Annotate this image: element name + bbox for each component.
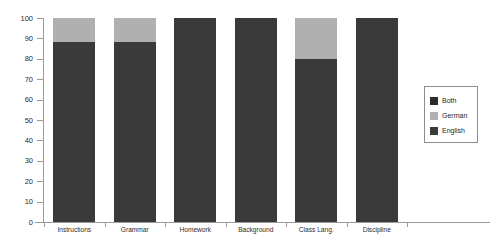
stacked-bar [235,18,277,222]
y-axis-tick-label: 80 [25,56,33,64]
y-axis-tick-label-wrap: 90 [37,38,44,39]
bar-segment-english [174,18,216,222]
y-axis-tick-label-wrap: 60 [37,100,44,101]
stacked-bar [356,18,398,222]
stacked-bar [295,18,337,222]
x-axis-tick [105,222,106,227]
legend-item-german: German [430,108,477,123]
y-axis-tick-label: 90 [25,35,33,43]
bar-segment-english [356,18,398,222]
x-axis-label-grammar: Grammar [121,227,149,234]
x-axis-label-class-lang: Class Lang. [299,227,334,234]
x-axis-tick [44,222,45,227]
plot-area [44,18,407,222]
stacked-bar [114,18,156,222]
y-axis-tick-label: 0 [29,219,33,227]
x-axis-tick [347,222,348,227]
bar-group [114,18,156,222]
legend-swatch-icon [430,127,438,135]
bar-group [53,18,95,222]
y-axis-tick-label: 50 [25,117,33,125]
x-axis-label-instructions: Instructions [57,227,91,234]
y-axis-tick-label-wrap: 30 [37,161,44,162]
bar-segment-english [53,42,95,222]
legend-label: Both [442,97,456,104]
x-axis-line [35,222,490,223]
y-axis-tick-label: 30 [25,158,33,166]
y-axis-tick-label: 60 [25,96,33,104]
x-axis-label-background: Background [238,227,273,234]
legend-swatch-icon [430,97,438,105]
y-axis-tick-label-wrap: 80 [37,59,44,60]
y-axis-tick-label: 70 [25,76,33,84]
legend-swatch-icon [430,112,438,120]
stacked-bar [53,18,95,222]
y-axis-tick-label-wrap: 10 [37,202,44,203]
x-axis-tick [165,222,166,227]
x-axis-tick [407,222,408,227]
bar-segment-german [295,18,337,59]
legend-item-english: English [430,123,477,138]
y-axis-tick-label-wrap: 100 [37,18,44,19]
y-axis-tick-label-wrap: 50 [37,120,44,121]
y-axis-tick-label-wrap: 0 [37,222,44,223]
bar-group [356,18,398,222]
x-axis-tick [226,222,227,227]
y-axis-tick-label: 10 [25,198,33,206]
y-axis-tick-label-wrap: 70 [37,79,44,80]
bar-segment-german [114,18,156,42]
bar-group [295,18,337,222]
legend-item-both: Both [430,93,477,108]
stacked-bar-chart: 0102030405060708090100 InstructionsGramm… [0,0,499,251]
x-axis-label-discipline: Discipline [363,227,391,234]
y-axis-tick-label: 20 [25,178,33,186]
bar-group [174,18,216,222]
y-axis-tick-label: 100 [20,15,33,23]
stacked-bar [174,18,216,222]
bar-segment-english [295,59,337,222]
y-axis-tick-label-wrap: 40 [37,140,44,141]
x-axis-label-homework: Homework [179,227,211,234]
y-axis-tick-label-wrap: 20 [37,181,44,182]
bar-segment-german [53,18,95,42]
legend-label: German [442,112,467,119]
bar-segment-english [114,42,156,222]
x-axis-tick [286,222,287,227]
legend-label: English [442,127,465,134]
bar-segment-english [235,18,277,222]
bar-group [235,18,277,222]
chart-legend: BothGermanEnglish [424,86,478,143]
y-axis-tick-label: 40 [25,137,33,145]
